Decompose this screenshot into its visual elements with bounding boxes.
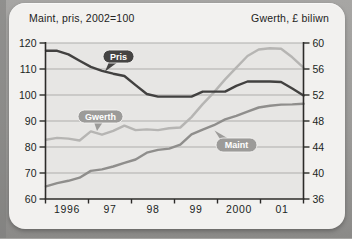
x-axis-tick-label: 01 [276, 203, 289, 215]
left-axis-tick-label: 90 [25, 115, 37, 127]
left-axis-tick-label: 120 [19, 37, 37, 49]
left-axis-tick-label: 80 [25, 141, 37, 153]
x-axis-tick-label: 97 [104, 203, 117, 215]
x-axis-tick-label: 98 [147, 203, 160, 215]
x-axis-tick-label: 1996 [54, 203, 80, 215]
series-label-text-gwerth: Gwerth [85, 112, 116, 122]
right-axis-tick-label: 40 [313, 167, 325, 179]
series-label-text-pris: Pris [110, 52, 127, 62]
left-axis-tick-label: 100 [19, 89, 37, 101]
right-axis-tick-label: 60 [313, 37, 325, 49]
right-axis-tick-label: 56 [313, 63, 325, 75]
left-axis-tick-label: 110 [20, 63, 37, 75]
x-axis-tick-label: 99 [190, 203, 203, 215]
left-axis-tick-label: 60 [25, 193, 37, 205]
line-chart: 1201101009080706060565248444036199697989… [0, 0, 352, 238]
right-axis-tick-label: 52 [313, 89, 325, 101]
right-axis-tick-label: 36 [313, 193, 325, 205]
series-label-text-maint: Maint [225, 140, 249, 150]
right-axis-tick-label: 44 [313, 141, 325, 153]
right-axis-tick-label: 48 [313, 115, 325, 127]
left-axis-tick-label: 70 [25, 167, 37, 179]
x-axis-tick-label: 2000 [226, 203, 252, 215]
